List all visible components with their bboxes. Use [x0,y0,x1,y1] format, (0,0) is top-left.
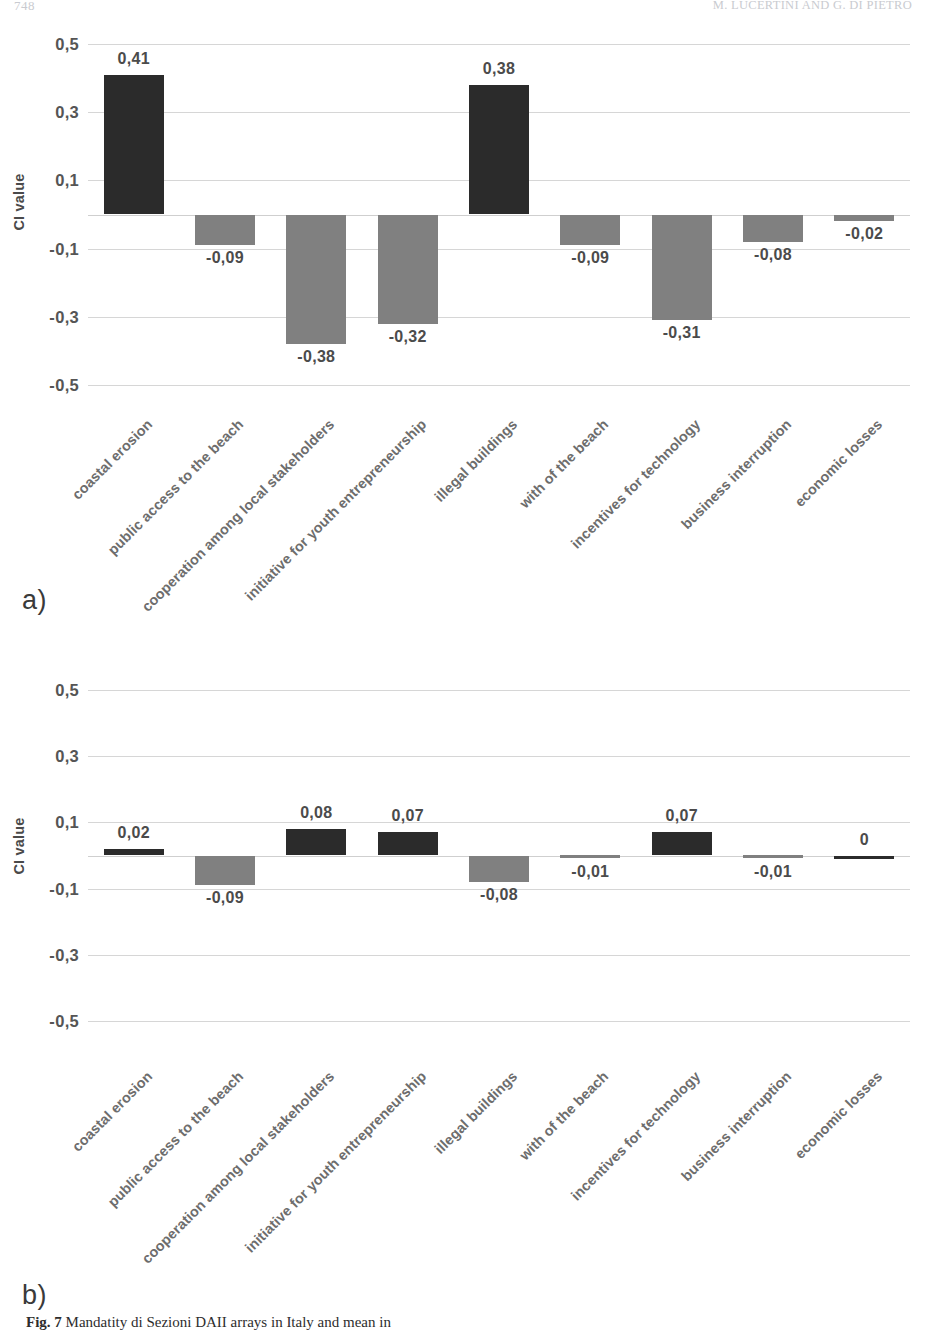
y-axis-tick-label: -0,3 [49,945,79,964]
bar [286,829,346,855]
bar [104,75,164,215]
bar-value-label: -0,09 [206,249,244,267]
category-label-text: with of the beach [517,1068,612,1163]
panel-letter-b: b) [22,1280,47,1311]
gridline [88,822,910,823]
bar-value-label: -0,01 [754,863,792,881]
y-axis-tick-label: 0,3 [55,103,79,122]
gridline [88,955,910,956]
y-axis-tick-label: -0,1 [49,239,79,258]
bar-value-label: 0 [860,831,869,849]
bar [743,215,803,242]
gridline [88,385,910,386]
bar [378,215,438,324]
bar-value-label: -0,08 [754,246,792,264]
page-running-head: 748 M. LUCERTINI AND G. DI PIETRO [0,0,928,16]
bar [195,215,255,246]
y-axis-tick-label: -0,5 [49,376,79,395]
running-head-title: M. LUCERTINI AND G. DI PIETRO [713,0,912,13]
bar-value-label: 0,02 [117,824,149,842]
category-label-text: illegal buildings [431,416,520,505]
bar [743,855,803,858]
x-axis-category-label: economic losses [792,416,886,510]
y-axis-tick-label: 0,5 [55,681,79,700]
bar [195,856,255,886]
plot-area-a: 0,50,30,1-0,1-0,3-0,50,41-0,09-0,38-0,32… [88,44,910,385]
bar [652,832,712,855]
bar [560,855,620,858]
category-label-text: with of the beach [517,416,612,511]
bar [469,85,529,215]
bar [834,856,894,859]
bar-value-label: -0,02 [845,225,883,243]
bar-value-label: -0,09 [571,249,609,267]
x-axis-category-label: initiative for youth entrepreneurship [241,1068,429,1256]
gridline [88,1021,910,1022]
y-axis-tick-label: -0,3 [49,307,79,326]
category-label-text: coastal erosion [68,1068,155,1155]
y-axis-tick-label: 0,1 [55,813,79,832]
bar-value-label: 0,07 [665,807,697,825]
y-axis-tick-label: 0,3 [55,747,79,766]
x-axis-category-label: with of the beach [517,416,612,511]
x-axis-category-label: initiative for youth entrepreneurship [241,416,429,604]
category-label-text: cooperation among local stakeholders [139,1068,338,1267]
bar-value-label: 0,08 [300,804,332,822]
gridline [88,317,910,318]
y-axis-tick-label: -0,1 [49,879,79,898]
x-axis-category-label: coastal erosion [68,416,155,503]
bar-value-label: -0,09 [206,889,244,907]
category-label-text: coastal erosion [68,416,155,503]
bar-value-label: -0,32 [389,328,427,346]
x-axis-category-label: coastal erosion [68,1068,155,1155]
bar-value-label: 0,38 [483,60,515,78]
bar [104,849,164,856]
plot-area-b: 0,50,30,1-0,1-0,3-0,50,02-0,090,080,07-0… [88,690,910,1021]
panel-letter-a: a) [22,585,47,616]
bar-value-label: -0,08 [480,886,518,904]
bar [286,215,346,345]
bar [469,856,529,882]
bar-value-label: -0,01 [571,863,609,881]
category-label-text: initiative for youth entrepreneurship [241,1068,429,1256]
category-label-text: economic losses [792,1068,886,1162]
bar [560,215,620,246]
bar [378,832,438,855]
figure-number: Fig. 7 [26,1314,62,1330]
gridline [88,756,910,757]
category-label-text: illegal buildings [431,1068,520,1157]
x-axis-category-label: with of the beach [517,1068,612,1163]
category-label-text: economic losses [792,416,886,510]
figure-caption-text: Mandatity di Sezioni DAII arrays in Ital… [66,1314,391,1330]
x-axis-category-label: cooperation among local stakeholders [139,1068,338,1267]
y-axis-title-b: CI value [11,817,27,874]
bar [652,215,712,321]
y-axis-tick-label: -0,5 [49,1012,79,1031]
x-axis-category-label: illegal buildings [431,1068,520,1157]
x-axis-category-label: illegal buildings [431,416,520,505]
y-axis-tick-label: 0,5 [55,35,79,54]
chart-panel-b: b) CI value 0,50,30,1-0,1-0,3-0,50,02-0,… [0,660,928,1310]
bar-value-label: -0,38 [297,348,335,366]
y-axis-tick-label: 0,1 [55,171,79,190]
bar-value-label: 0,07 [391,807,423,825]
bar-value-label: 0,41 [117,50,149,68]
category-label-text: cooperation among local stakeholders [139,416,338,615]
gridline [88,690,910,691]
gridline [88,44,910,45]
page-number: 748 [14,0,35,14]
bar-value-label: -0,31 [663,324,701,342]
category-label-text: initiative for youth entrepreneurship [241,416,429,604]
figure-caption: Fig. 7 Mandatity di Sezioni DAII arrays … [26,1312,902,1330]
bar [834,215,894,222]
x-axis-category-label: economic losses [792,1068,886,1162]
x-axis-category-label: cooperation among local stakeholders [139,416,338,615]
chart-panel-a: a) CI value 0,50,30,1-0,1-0,3-0,50,41-0,… [0,20,928,640]
y-axis-title-a: CI value [11,173,27,230]
